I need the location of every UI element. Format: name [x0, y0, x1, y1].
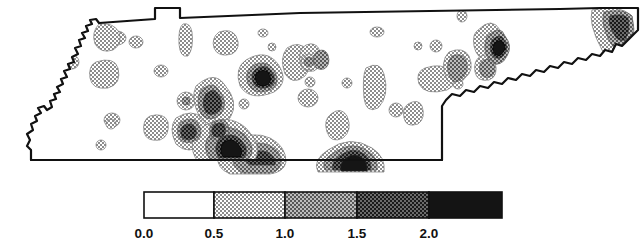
contour-blob [129, 36, 143, 48]
legend-tick-2: 1.0 [276, 226, 295, 241]
contour-blob [154, 65, 168, 77]
contour-blob [305, 77, 315, 87]
contour-blob [181, 124, 197, 140]
legend-swatch-4 [429, 192, 502, 218]
contour-blob [304, 57, 314, 67]
contour-blob [457, 10, 467, 22]
legend-swatch-0 [144, 192, 214, 218]
contour-blob [239, 99, 249, 109]
contour-blob [255, 70, 270, 86]
legend-swatch-2 [285, 192, 357, 218]
contour-blob [370, 27, 384, 37]
legend-panel: 0.0 0.5 1.0 1.5 2.0 [0, 178, 640, 250]
contour-blob [414, 42, 422, 50]
legend-tick-3: 1.5 [348, 226, 367, 241]
contour-blob [212, 123, 226, 137]
contour-blob [144, 115, 169, 140]
contour-blob [213, 31, 238, 55]
contour-blob [480, 59, 495, 77]
contour-blob [314, 50, 329, 69]
contour-blob [182, 97, 190, 105]
contour-blob [90, 60, 119, 88]
contour-blob [430, 40, 442, 52]
contour-blob [106, 119, 116, 129]
contour-blob [389, 103, 403, 117]
map-panel [0, 0, 640, 178]
contour-blob [179, 24, 193, 57]
tennessee-contour-map [0, 0, 640, 178]
contour-blob [268, 43, 276, 51]
contour-blob [258, 29, 268, 37]
legend-swatch-1 [214, 192, 285, 218]
legend-tick-0: 0.0 [135, 226, 154, 241]
contour-blob [96, 140, 106, 150]
legend-swatch-3 [357, 192, 429, 218]
map-background [0, 0, 640, 178]
contour-blob [342, 78, 352, 88]
contour-map-figure: 0.0 0.5 1.0 1.5 2.0 [0, 0, 640, 250]
colorbar-legend: 0.0 0.5 1.0 1.5 2.0 [0, 178, 640, 250]
contour-blob [404, 101, 424, 125]
legend-tick-1: 0.5 [205, 226, 224, 241]
legend-tick-4: 2.0 [420, 226, 439, 241]
contour-blob [298, 89, 318, 107]
